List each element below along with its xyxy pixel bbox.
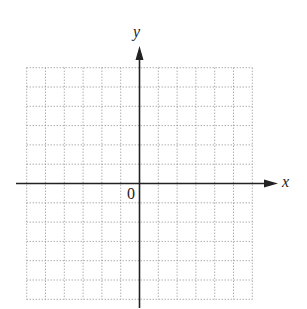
y-axis-label: y <box>133 24 140 40</box>
x-axis-arrow-icon <box>264 180 278 188</box>
coordinate-plane: y x 0 <box>0 0 307 309</box>
origin-label: 0 <box>127 186 135 202</box>
x-axis-label: x <box>282 174 289 190</box>
y-axis-arrow-icon <box>136 46 144 60</box>
coordinate-grid <box>0 0 307 309</box>
